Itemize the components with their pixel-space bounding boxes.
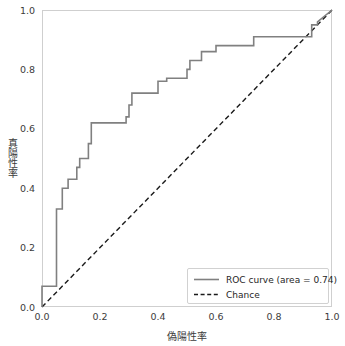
chart-legend: ROC curve (area = 0.74) Chance [188,269,337,304]
x-tick-label: 0.4 [150,311,165,322]
y-tick-label: 0.8 [20,64,35,75]
x-tick-label: 1.0 [324,311,339,322]
x-tick-labels: 0.0 0.2 0.4 0.6 0.8 1.0 [34,311,339,322]
y-tick-label: 0.6 [20,123,35,134]
x-tick-label: 0.8 [266,311,281,322]
roc-chart-figure: 0.0 0.2 0.4 0.6 0.8 1.0 0.0 0.2 0.4 0.6 … [0,0,345,346]
y-tick-labels: 0.0 0.2 0.4 0.6 0.8 1.0 [20,5,35,313]
chart-canvas: 0.0 0.2 0.4 0.6 0.8 1.0 0.0 0.2 0.4 0.6 … [0,0,345,346]
y-tick-label: 0.4 [20,183,35,194]
x-tick-label: 0.6 [208,311,223,322]
y-axis-title: 真陽性率 [7,137,18,179]
legend-label-roc-curve: ROC curve (area = 0.74) [226,275,337,285]
x-tick-label: 0.2 [92,311,107,322]
y-tick-label: 1.0 [20,5,35,16]
x-axis-title: 偽陽性率 [167,330,207,342]
x-tick-label: 0.0 [34,311,49,322]
y-tick-label: 0.0 [20,302,35,313]
legend-label-chance: Chance [226,290,260,300]
y-tick-label: 0.2 [20,242,35,253]
